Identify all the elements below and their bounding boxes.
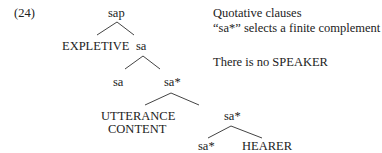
- node-sap: sap: [108, 7, 125, 20]
- node-expletive: EXPLETIVE: [62, 40, 129, 53]
- branch-sastar-utterance: [145, 93, 171, 105]
- branch-sastar-hearer: [231, 126, 262, 138]
- note-speaker: There is no SPEAKER: [213, 56, 328, 69]
- branch-sastar-sastar: [171, 93, 199, 105]
- node-content: CONTENT: [108, 123, 166, 136]
- node-sa: sa: [136, 40, 146, 53]
- note-title: Quotative clauses: [213, 7, 302, 20]
- branch-sastar-leaf: [208, 126, 231, 138]
- node-sa-leaf: sa: [113, 76, 123, 89]
- note-selection: “sa*” selects a finite complement: [213, 22, 380, 35]
- node-hearer: HEARER: [242, 140, 292, 153]
- branch-sap-expletive: [97, 22, 117, 35]
- node-sa-star: sa*: [164, 76, 181, 89]
- branch-sap-sa: [117, 22, 134, 35]
- node-sa-star-2: sa*: [224, 110, 241, 123]
- branch-sa-sa: [125, 56, 143, 69]
- node-sa-star-3: sa*: [198, 140, 215, 153]
- branch-sa-sastar: [143, 56, 160, 69]
- node-utterance: UTTERANCE: [101, 110, 175, 123]
